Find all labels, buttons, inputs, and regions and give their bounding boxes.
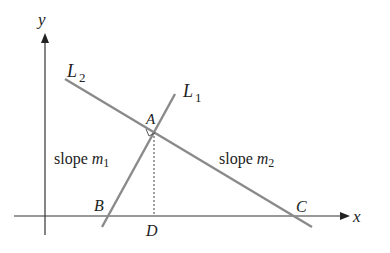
slope-m2-sub: 2 — [268, 156, 274, 170]
label-L1-subscript: 1 — [195, 90, 202, 105]
slope-m1-text: slope — [54, 150, 92, 168]
perpendicular-lines-diagram: y x L 2 L 1 A B C D slope m1 slope m2 — [0, 0, 390, 253]
slope-m2-label: slope m2 — [219, 150, 274, 170]
y-axis-label: y — [36, 10, 46, 29]
slope-m1-label: slope m1 — [54, 150, 109, 170]
slope-m1-var: m — [92, 150, 104, 167]
point-C-label: C — [296, 198, 307, 215]
slope-m1-sub: 1 — [103, 156, 109, 170]
point-D-label: D — [145, 222, 158, 239]
line-L1 — [102, 94, 175, 227]
slope-m2-var: m — [257, 150, 269, 167]
label-L2: L — [66, 61, 77, 81]
label-L1: L — [182, 81, 193, 101]
point-A-label: A — [145, 111, 156, 127]
x-axis-arrow-icon — [340, 212, 350, 220]
x-axis-label: x — [352, 207, 361, 226]
y-axis-arrow-icon — [41, 33, 49, 43]
slope-m2-text: slope — [219, 150, 257, 168]
label-L2-subscript: 2 — [79, 70, 86, 85]
point-B-label: B — [94, 197, 104, 214]
